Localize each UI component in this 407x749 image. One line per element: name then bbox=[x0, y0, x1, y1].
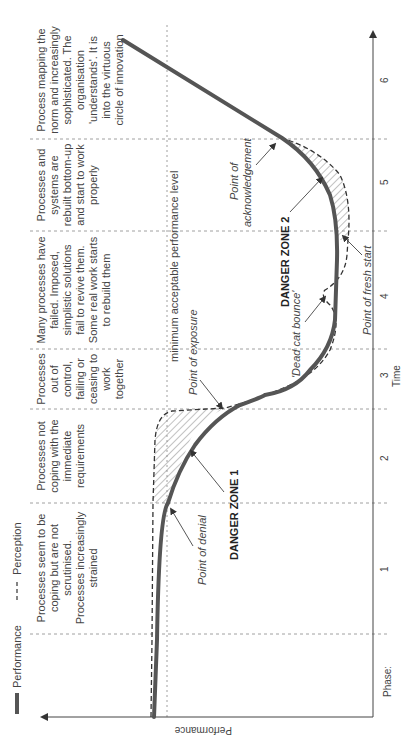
phase-1-line-4: Processes increasingly bbox=[74, 511, 86, 624]
phase-3-line-7: together bbox=[113, 358, 125, 399]
phase-6-line-7: circle of innovation bbox=[113, 34, 125, 125]
phase-6-line-5: 'understands'. It is bbox=[87, 36, 99, 124]
phase-5-line-2: systems are bbox=[48, 155, 60, 214]
phase-4-line-1: Many processes have bbox=[35, 237, 47, 344]
point-of-exposure-label: Point of exposure bbox=[187, 309, 199, 395]
tick-1: 1 bbox=[379, 566, 390, 572]
legend-performance-label: Performance bbox=[11, 625, 23, 688]
phase-6-line-4: organisation bbox=[74, 50, 86, 110]
phase-2-line-1: Processes not bbox=[35, 421, 47, 491]
tick-5: 5 bbox=[379, 179, 390, 185]
phase-4-line-3: simplistic solutions bbox=[61, 244, 73, 336]
phase-1-line-3: scrutinised. bbox=[61, 540, 73, 596]
phase-1-line-2: coping but are not bbox=[48, 524, 60, 612]
phase-4-line-6: to rebuild them bbox=[100, 254, 112, 327]
phase-3-line-1: Processes bbox=[35, 353, 47, 405]
phase-3-line-3: control, bbox=[61, 361, 73, 397]
phase-label: Phase: bbox=[382, 666, 393, 697]
danger-zone-2-label: DANGER ZONE 2 bbox=[279, 217, 291, 307]
phase-6-line-3: sophisticated. The bbox=[61, 35, 73, 124]
point-of-acknowledgement-label-2: acknowledgement bbox=[241, 137, 253, 227]
phase-5-line-5: properly bbox=[87, 165, 99, 205]
phase-4-line-5: Some real work starts bbox=[87, 236, 99, 343]
point-of-fresh-start-label: Point of fresh start bbox=[361, 245, 373, 335]
phase-4-line-2: failed. Imposed, bbox=[48, 251, 60, 329]
dead-cat-bounce-label: 'Dead cat bounce' bbox=[290, 290, 302, 378]
point-of-denial-label: Point of denial bbox=[196, 515, 208, 585]
phase-1-line-5: strained bbox=[87, 548, 99, 587]
tick-2: 2 bbox=[379, 455, 390, 461]
legend: Performance Perception bbox=[11, 522, 23, 714]
performance-curve bbox=[123, 40, 337, 717]
min-level-label: minimum acceptable performance level bbox=[168, 171, 180, 362]
phase-5-line-3: rebuilt bottom-up bbox=[61, 144, 73, 227]
phase-2-line-2: coping with the bbox=[48, 419, 60, 492]
phase-4-line-4: fail to revive them. bbox=[74, 245, 86, 334]
time-ticks: 1 2 3 4 5 6 bbox=[379, 77, 390, 572]
phase-2-line-4: requirements bbox=[74, 423, 86, 488]
phase-5-line-4: and start to work bbox=[74, 144, 86, 226]
phase-6-line-6: into the virtuous bbox=[100, 41, 112, 119]
phase-diagram: Performance Perception Processes seem to… bbox=[0, 0, 407, 749]
phase-3-line-6: work bbox=[100, 367, 112, 392]
phase-2-line-3: immediate bbox=[61, 431, 73, 482]
danger-zone-1-label: DANGER ZONE 1 bbox=[228, 470, 240, 560]
phase-3-line-5: ceasing to bbox=[87, 354, 99, 404]
tick-6: 6 bbox=[379, 77, 390, 83]
phase-6-line-2: norm and increasingly bbox=[48, 26, 60, 134]
time-axis-label: Time bbox=[391, 365, 402, 387]
phase-6-line-1: Process mapping the bbox=[35, 28, 47, 131]
legend-perception-label: Perception bbox=[11, 522, 23, 575]
danger-zone-2-area bbox=[282, 138, 349, 240]
phase-1-line-1: Processes seem to be bbox=[35, 514, 47, 623]
phase-3-line-2: out of bbox=[48, 364, 60, 392]
tick-3: 3 bbox=[379, 372, 390, 378]
phase-3-line-4: failing or bbox=[74, 358, 86, 400]
phase-descriptions: Processes seem to be coping but are not … bbox=[35, 26, 125, 625]
point-of-acknowledgement-label-1: Point of bbox=[228, 162, 240, 200]
tick-4: 4 bbox=[379, 293, 390, 299]
phase-5-line-1: Processes and bbox=[35, 149, 47, 222]
performance-axis-label: Performance bbox=[174, 725, 232, 736]
